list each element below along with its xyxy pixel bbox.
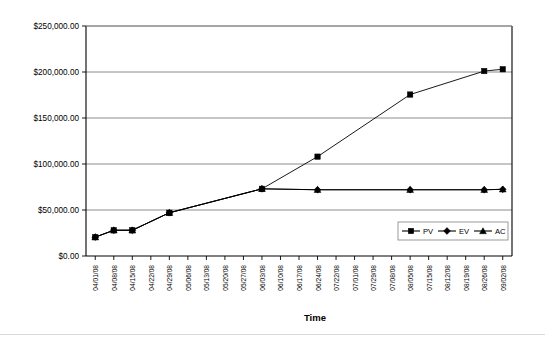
square-marker <box>407 92 412 97</box>
x-axis-tick-label: 04/29/08 <box>166 265 173 291</box>
x-axis-tick-label: 06/17/08 <box>296 265 303 291</box>
x-axis-tick-label: 07/01/08 <box>352 265 359 291</box>
x-axis-tick-label: 04/15/08 <box>129 265 136 291</box>
y-axis-tick-label: $50,000.00 <box>38 206 79 215</box>
y-axis-tick-label: $250,000.00 <box>33 22 79 31</box>
x-axis-tick-label: 08/26/08 <box>481 265 488 291</box>
square-marker <box>500 67 505 72</box>
y-axis-tick-label: $100,000.00 <box>33 160 79 169</box>
x-axis-tick-label: 07/15/08 <box>426 265 433 291</box>
x-axis-tick-label: 07/08/08 <box>389 265 396 291</box>
x-axis-tick-label: 04/08/08 <box>111 265 118 291</box>
y-axis-tick-label: $0.00 <box>59 252 80 261</box>
x-axis-tick-label: 05/27/08 <box>240 265 247 291</box>
x-axis-tick-label: 08/19/08 <box>463 265 470 291</box>
x-axis-tick-label: 09/02/08 <box>500 265 507 291</box>
x-axis-tick-label: 07/22/08 <box>333 265 340 291</box>
chart-container: $0.00$50,000.00$100,000.00$150,000.00$20… <box>0 0 545 337</box>
x-axis-tick-label: 08/05/08 <box>407 265 414 291</box>
x-axis-tick-label: 06/03/08 <box>259 265 266 291</box>
y-axis-tick-label: $150,000.00 <box>33 114 79 123</box>
x-axis-tick-label: 07/29/08 <box>370 265 377 291</box>
square-marker <box>482 68 487 73</box>
earned-value-line-chart: $0.00$50,000.00$100,000.00$150,000.00$20… <box>0 0 545 337</box>
square-marker <box>315 154 320 159</box>
chart-legend: PVEVAC <box>398 222 508 240</box>
x-axis-tick-label: 05/06/08 <box>185 265 192 291</box>
x-axis-tick-label: 05/13/08 <box>203 265 210 291</box>
square-marker <box>408 228 413 233</box>
x-axis-tick-label: 05/20/08 <box>222 265 229 291</box>
legend-label-pv: PV <box>423 227 434 236</box>
x-axis-tick-label: 06/24/08 <box>315 265 322 291</box>
x-axis-title: Time <box>304 312 326 323</box>
x-axis-tick-label: 08/12/08 <box>444 265 451 291</box>
y-axis-tick-label: $200,000.00 <box>33 68 79 77</box>
legend-label-ev: EV <box>459 227 470 236</box>
x-axis-tick-labels: 04/01/0804/08/0804/15/0804/22/0804/29/08… <box>92 265 506 291</box>
x-axis-tick-label: 04/01/08 <box>92 265 99 291</box>
legend-label-ac: AC <box>495 227 506 236</box>
x-axis-tick-label: 04/22/08 <box>148 265 155 291</box>
x-axis-tick-label: 06/10/08 <box>277 265 284 291</box>
